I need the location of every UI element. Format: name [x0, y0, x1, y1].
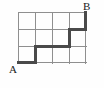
point-label-b: B — [83, 1, 90, 12]
point-label-a: A — [9, 64, 17, 75]
grid-lines — [18, 12, 86, 63]
lattice-path-figure: A B — [0, 0, 104, 88]
